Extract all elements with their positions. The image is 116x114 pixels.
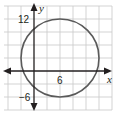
tick-label-x-6: 6	[57, 75, 63, 86]
coordinate-plane: y x 6 12 −6	[0, 0, 116, 114]
x-axis-label: x	[106, 73, 112, 85]
y-axis-up-arrow-icon	[31, 3, 38, 11]
tick-label-y-neg6: −6	[19, 92, 31, 103]
tick-label-y-12: 12	[18, 14, 30, 25]
x-axis-left-arrow-icon	[3, 68, 11, 75]
y-axis-label: y	[38, 2, 44, 14]
